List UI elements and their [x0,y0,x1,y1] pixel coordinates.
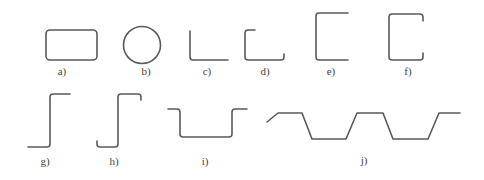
circle-profile [124,27,161,64]
shape-f: f) [389,14,423,78]
angle-profile [190,31,228,60]
shape-g: g) [28,94,70,168]
label-e: e) [327,65,336,78]
shape-i: i) [168,109,247,168]
profile-diagram: a) b) c) d) e) f) g) h) i) j) [0,0,484,180]
label-c: c) [203,65,212,78]
rounded-rectangle-profile [46,30,97,60]
trapezoidal-sheet-profile [267,113,460,139]
lipped-angle-profile [245,30,284,60]
channel-profile [316,13,348,60]
shape-a: a) [46,30,97,78]
shape-h: h) [97,94,141,168]
label-f: f) [404,65,412,78]
label-i: i) [202,155,209,168]
label-j: j) [360,154,368,167]
z-profile [28,94,70,147]
shape-c: c) [190,31,228,78]
label-g: g) [40,155,50,168]
shape-j: j) [267,113,460,167]
label-d: d) [260,65,270,78]
shape-b: b) [124,27,161,79]
label-a: a) [58,65,67,78]
lipped-z-profile [97,94,141,147]
hat-profile [168,109,247,137]
label-h: h) [109,155,119,168]
label-b: b) [141,65,151,78]
lipped-channel-profile [389,14,423,60]
shape-d: d) [245,30,284,78]
shape-e: e) [316,13,348,78]
